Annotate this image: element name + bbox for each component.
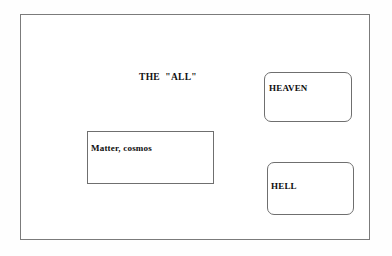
region-label-matter-cosmos: Matter, cosmos (91, 143, 152, 153)
diagram-outer-frame: THE "ALL" Matter, cosmos HEAVEN HELL (20, 14, 370, 240)
region-box-heaven (264, 72, 352, 122)
diagram-title-the-all: THE "ALL" (139, 72, 197, 82)
diagram-canvas: THE "ALL" Matter, cosmos HEAVEN HELL (0, 0, 392, 256)
region-label-hell: HELL (271, 181, 297, 191)
region-label-heaven: HEAVEN (269, 83, 308, 93)
region-box-matter-cosmos (87, 131, 214, 184)
